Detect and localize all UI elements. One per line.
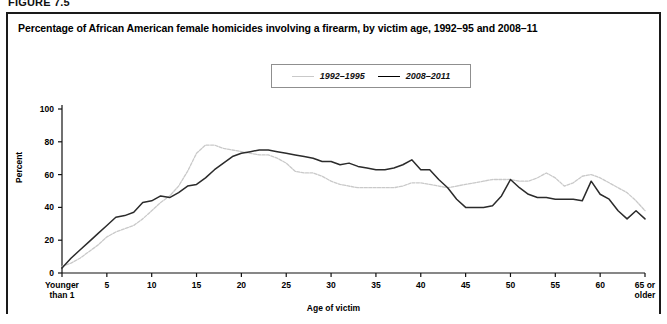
chart-plot-area <box>0 0 667 324</box>
series-line-2008-2011 <box>62 150 645 268</box>
chart-axes <box>58 105 645 277</box>
series-line-1992-1995 <box>62 145 645 266</box>
chart-series-layer <box>62 145 645 268</box>
figure-container: FIGURE 7.5 Percentage of African America… <box>0 0 667 324</box>
